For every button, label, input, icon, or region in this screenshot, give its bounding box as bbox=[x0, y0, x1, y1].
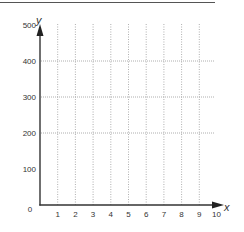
x-axis-arrow-icon bbox=[212, 202, 224, 209]
y-tick-200: 200 bbox=[23, 129, 37, 138]
x-tick-7: 7 bbox=[162, 210, 167, 219]
x-tick-labels: 1 2 3 4 5 6 7 8 9 10 bbox=[55, 210, 221, 219]
x-tick-9: 9 bbox=[197, 210, 202, 219]
x-tick-6: 6 bbox=[144, 210, 149, 219]
vertical-gridlines bbox=[58, 24, 200, 205]
y-tick-100: 100 bbox=[23, 165, 37, 174]
y-tick-400: 400 bbox=[23, 57, 37, 66]
x-tick-10: 10 bbox=[212, 210, 221, 219]
x-axis-label: x bbox=[223, 201, 230, 213]
x-tick-1: 1 bbox=[55, 210, 60, 219]
origin-label: 0 bbox=[28, 205, 33, 214]
x-tick-8: 8 bbox=[179, 210, 184, 219]
y-tick-300: 300 bbox=[23, 93, 37, 102]
x-tick-3: 3 bbox=[91, 210, 96, 219]
x-tick-5: 5 bbox=[126, 210, 131, 219]
y-axis-label: y bbox=[35, 14, 43, 26]
blank-graph: y x 0 100 200 300 400 500 1 2 3 4 5 6 7 … bbox=[0, 0, 244, 232]
x-tick-4: 4 bbox=[109, 210, 114, 219]
y-tick-labels: 100 200 300 400 500 bbox=[23, 21, 37, 174]
x-tick-2: 2 bbox=[73, 210, 78, 219]
horizontal-gridlines bbox=[41, 61, 215, 133]
y-tick-500: 500 bbox=[23, 21, 37, 30]
